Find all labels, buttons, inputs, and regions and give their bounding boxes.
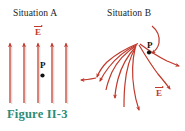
electric-field-vector-label-a: E [34, 26, 42, 37]
electric-field-vector-label-b: E [155, 87, 163, 98]
field-symbol-a: E [34, 28, 42, 37]
situation-a-line-shadows [12, 45, 68, 104]
figure-caption: Figure II-3 [7, 107, 68, 122]
figure-ii-3: Situation A Situation B [0, 0, 185, 131]
vector-arrow-overbar-b [155, 87, 163, 88]
vector-arrow-overbar-a [34, 26, 42, 27]
point-p-marker-b [147, 50, 151, 54]
situation-a-field-lines [10, 44, 66, 104]
point-p-label-b: P [147, 40, 153, 50]
field-symbol-b: E [155, 89, 163, 98]
situation-b-field-lines [81, 26, 179, 110]
point-p-label-a: P [40, 60, 46, 70]
point-p-marker-a [40, 73, 44, 77]
